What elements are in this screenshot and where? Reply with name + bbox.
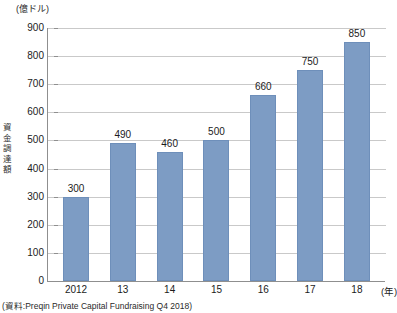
- y-tick-label: 200: [14, 219, 44, 230]
- bar: [157, 152, 183, 281]
- y-tick-label: 300: [14, 191, 44, 202]
- y-tick-label: 900: [14, 22, 44, 33]
- x-tick-label: 13: [100, 284, 146, 295]
- y-tick-label: 0: [14, 275, 44, 286]
- y-axis-unit-label: (億ドル): [16, 2, 49, 15]
- bar: [110, 143, 136, 281]
- y-tick-label: 700: [14, 78, 44, 89]
- bar-value-label: 750: [287, 56, 333, 67]
- x-tick-label: 17: [287, 284, 333, 295]
- y-tick-mark: [54, 281, 58, 282]
- bar-value-label: 660: [240, 81, 286, 92]
- bar-value-label: 490: [100, 129, 146, 140]
- bar: [250, 95, 276, 281]
- x-tick-label: 15: [193, 284, 239, 295]
- x-tick-label: 18: [334, 284, 380, 295]
- bar: [203, 140, 229, 281]
- x-axis-ticks: 2012131415161718(年): [47, 284, 385, 300]
- y-tick-label: 800: [14, 50, 44, 61]
- bar-value-label: 300: [53, 183, 99, 194]
- bar-value-label: 500: [193, 126, 239, 137]
- bar: [63, 197, 89, 281]
- x-tick-label: 16: [240, 284, 286, 295]
- x-tick-label: 2012: [53, 284, 99, 295]
- y-axis-ticks: 0100200300400500600700800900: [10, 28, 44, 281]
- bar-series: 300490460500660750850: [47, 28, 385, 281]
- source-note: (資料:Preqin Private Capital Fundraising Q…: [2, 299, 192, 311]
- bar: [297, 70, 323, 281]
- bar-value-label: 460: [147, 138, 193, 149]
- bar: [344, 42, 370, 281]
- y-tick-label: 500: [14, 134, 44, 145]
- x-axis-line: [47, 281, 385, 282]
- y-tick-label: 400: [14, 163, 44, 174]
- y-tick-label: 600: [14, 106, 44, 117]
- x-axis-unit-label: (年): [381, 284, 397, 298]
- bar-value-label: 850: [334, 28, 380, 39]
- x-tick-label: 14: [147, 284, 193, 295]
- y-tick-label: 100: [14, 247, 44, 258]
